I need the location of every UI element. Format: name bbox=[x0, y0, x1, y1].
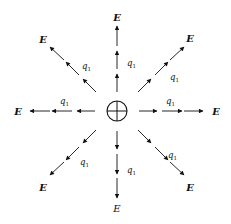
field-diagram: E E E E E E E E q1 q1 q1 q1 q1 q1 q1 q1 bbox=[0, 0, 231, 224]
field-label-up: E bbox=[112, 12, 121, 23]
svg-text:q1: q1 bbox=[127, 165, 136, 176]
field-label-upper-right: E bbox=[185, 33, 194, 44]
field-label-down: E bbox=[112, 203, 121, 214]
charge-label-upper-right: q1 bbox=[170, 72, 179, 83]
charge-label-down: q1 bbox=[127, 165, 136, 176]
field-label-left: E bbox=[13, 106, 22, 117]
field-line-lower-right bbox=[138, 130, 184, 175]
charge-label-left: q1 bbox=[60, 96, 69, 107]
charge-label-right: q1 bbox=[166, 96, 175, 107]
charge-label-lower-left: q1 bbox=[80, 157, 89, 168]
svg-text:q1: q1 bbox=[80, 157, 89, 168]
field-line-lower-left bbox=[50, 130, 96, 175]
field-label-upper-left: E bbox=[38, 34, 47, 45]
svg-text:q1: q1 bbox=[60, 96, 69, 107]
charge-label-up: q1 bbox=[127, 58, 136, 69]
field-label-lower-left: E bbox=[38, 182, 47, 193]
svg-text:q1: q1 bbox=[168, 150, 177, 161]
field-line-upper-right bbox=[138, 47, 184, 92]
charge-label-lower-right: q1 bbox=[168, 150, 177, 161]
svg-text:q1: q1 bbox=[127, 58, 136, 69]
svg-text:q1: q1 bbox=[166, 96, 175, 107]
field-label-lower-right: E bbox=[185, 182, 194, 193]
field-label-right: E bbox=[211, 106, 220, 117]
svg-text:q1: q1 bbox=[170, 72, 179, 83]
svg-text:q1: q1 bbox=[82, 61, 91, 72]
charge-label-upper-left: q1 bbox=[82, 61, 91, 72]
positive-charge-icon bbox=[107, 101, 127, 121]
